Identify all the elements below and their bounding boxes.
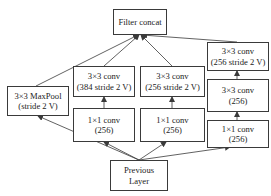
edge-prev-to-b4conv1 — [139, 147, 230, 160]
branch2-conv3x3-label: 3×3 conv — [88, 71, 120, 82]
branch4-conv1x1-sublabel: (256) — [229, 134, 248, 145]
edge-prev-to-b2conv1 — [104, 142, 139, 160]
branch4-conv3x3-node: 3×3 conv (256) — [207, 79, 269, 112]
branch3-conv1x1-node: 1×1 conv (256) — [140, 108, 205, 142]
branch2-conv3x3-sublabel: (384 stride 2 V) — [77, 82, 132, 93]
maxpool-node: 3×3 MaxPool (stride 2 V) — [7, 86, 69, 116]
branch2-conv1x1-sublabel: (256) — [95, 125, 114, 136]
branch3-conv3x3-sublabel: (256 stride 2 V) — [145, 82, 200, 93]
branch3-conv3x3-label: 3×3 conv — [156, 71, 188, 82]
previous-layer-sublabel: Layer — [129, 176, 149, 187]
branch3-conv1x1-label: 1×1 conv — [156, 115, 188, 126]
previous-layer-node: Previous Layer — [110, 160, 168, 191]
branch3-conv3x3-stride-node: 3×3 conv (256 stride 2 V) — [140, 66, 205, 97]
filter-concat-node: Filter concat — [113, 9, 167, 35]
branch2-conv1x1-label: 1×1 conv — [88, 115, 120, 126]
maxpool-sublabel: (stride 2 V) — [18, 101, 57, 112]
filter-concat-label: Filter concat — [118, 17, 161, 28]
edge-b3conv3-to-concat — [141, 35, 172, 66]
edge-b4conv3s-to-concat — [142, 35, 237, 42]
branch4-conv3x3s-label: 3×3 conv — [222, 46, 254, 57]
branch4-conv3x3s-sublabel: (256 stride 2 V) — [211, 57, 266, 68]
branch4-conv3x3-stride-node: 3×3 conv (256 stride 2 V) — [207, 42, 269, 71]
maxpool-label: 3×3 MaxPool — [14, 91, 61, 102]
branch2-conv1x1-node: 1×1 conv (256) — [73, 108, 135, 142]
branch4-conv3x3-label: 3×3 conv — [222, 85, 254, 96]
branch4-conv3x3-sublabel: (256) — [229, 96, 248, 107]
branch2-conv3x3-stride-node: 3×3 conv (384 stride 2 V) — [73, 66, 135, 97]
edge-b2conv3-to-concat — [104, 35, 139, 66]
previous-layer-label: Previous — [124, 165, 154, 176]
branch4-conv1x1-label: 1×1 conv — [222, 124, 254, 135]
edge-prev-to-b3conv1 — [139, 142, 166, 160]
branch4-conv1x1-node: 1×1 conv (256) — [207, 120, 269, 148]
branch3-conv1x1-sublabel: (256) — [163, 125, 182, 136]
